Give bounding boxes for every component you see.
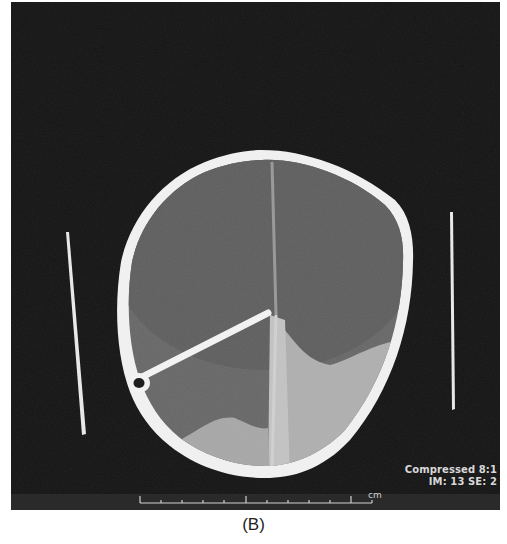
figure-caption: (B) [0, 515, 507, 535]
image-series-label: IM: 13 SE: 2 [405, 476, 497, 488]
scale-unit-label: cm [368, 490, 382, 500]
compression-label: Compressed 8:1 [405, 464, 497, 476]
dicom-overlay: Compressed 8:1 IM: 13 SE: 2 [405, 464, 497, 488]
ct-figure: Compressed 8:1 IM: 13 SE: 2 cm (B) [0, 0, 507, 544]
ct-image [11, 2, 500, 510]
